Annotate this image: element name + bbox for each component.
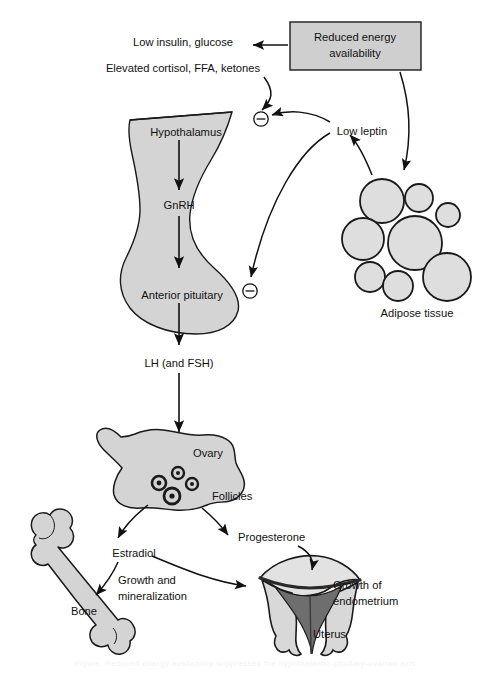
arrow-ovary-to-estradiol [118, 505, 148, 538]
label-low-leptin: Low leptin [337, 125, 387, 137]
label-bone: Bone [71, 605, 97, 617]
reduced-energy-box [290, 22, 421, 70]
label-growth-endometrium-line2: endometrium [333, 595, 398, 607]
arrow-low-leptin-to-lower-inhibition [251, 133, 330, 277]
label-elevated-cortisol: Elevated cortisol, FFA, ketones [106, 62, 261, 74]
arrow-estradiol-to-bone [96, 562, 118, 595]
label-progesterone: Progesterone [238, 531, 305, 543]
diagram-canvas: Low insulin, glucose Elevated cortisol, … [0, 0, 493, 675]
label-growth-mineralization-line1: Growth and [118, 574, 176, 586]
label-low-insulin: Low insulin, glucose [133, 36, 233, 48]
label-gnrh: GnRH [163, 199, 194, 211]
label-anterior-pituitary: Anterior pituitary [141, 289, 223, 301]
label-adipose-tissue: Adipose tissue [381, 307, 454, 319]
diagram-svg: Low insulin, glucose Elevated cortisol, … [0, 0, 493, 675]
label-uterus: Uterus [313, 628, 346, 640]
label-growth-endometrium-line1: Growth of [333, 579, 382, 591]
label-ovary: Ovary [193, 447, 223, 459]
adipose-tissue-cells [342, 179, 471, 301]
arrow-metabolites-to-upper-inhibition [262, 77, 271, 110]
inhibition-sign-lower [243, 284, 257, 298]
arrow-ovary-to-progesterone [202, 508, 228, 535]
label-estradiol: Estradiol [112, 547, 156, 559]
arrow-adipose-to-low-leptin [350, 135, 372, 175]
inhibition-sign-upper [254, 112, 268, 126]
label-reduced-energy-line2: availability [329, 47, 381, 59]
label-follicles: Follicles [212, 490, 253, 502]
figure-caption-faint: Figure. Reduced energy availability supp… [0, 653, 493, 675]
arrow-reduced-energy-to-adipose [400, 72, 409, 170]
arrow-low-leptin-to-upper-inhibition [272, 112, 330, 122]
label-reduced-energy-line1: Reduced energy [314, 31, 397, 43]
label-growth-mineralization-line2: mineralization [118, 590, 187, 602]
label-lh-fsh: LH (and FSH) [144, 357, 213, 369]
label-hypothalamus: Hypothalamus [150, 126, 222, 138]
